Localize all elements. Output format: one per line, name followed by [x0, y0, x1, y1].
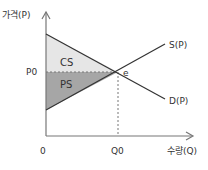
y-axis-label: 가격(P) [2, 9, 30, 20]
supply-label: S(P) [169, 40, 187, 50]
ps-label: PS [60, 79, 72, 90]
x-axis-label: 수량(Q) [167, 145, 197, 156]
cs-label: CS [60, 57, 73, 68]
price-p0-label: P0 [26, 67, 37, 77]
demand-label: D(P) [169, 96, 188, 106]
quantity-q0-label: Q0 [111, 146, 124, 156]
origin-label: 0 [40, 146, 46, 156]
equilibrium-label: e [123, 68, 129, 78]
surplus-diagram: 가격(P) 수량(Q) 0 P0 Q0 e S(P) D(P) CS PS [0, 0, 208, 170]
